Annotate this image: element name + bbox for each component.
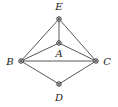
node-label-d: D: [54, 92, 63, 103]
edge-a-b: [21, 43, 59, 61]
node-label-e: E: [54, 1, 63, 12]
edge-e-b: [21, 19, 59, 61]
node-e-center: [58, 18, 60, 20]
node-label-b: B: [5, 56, 13, 67]
graph-diagram: EABCD: [0, 0, 118, 107]
labels-group: EABCD: [5, 1, 111, 103]
edge-b-d: [21, 61, 59, 84]
node-b-center: [20, 60, 22, 62]
edge-a-c: [59, 43, 96, 61]
node-d-center: [58, 83, 60, 85]
edge-e-c: [59, 19, 96, 61]
node-label-c: C: [103, 56, 111, 67]
node-c-center: [95, 60, 97, 62]
node-a-center: [58, 42, 60, 44]
node-label-a: A: [54, 48, 62, 59]
edge-c-d: [59, 61, 96, 84]
